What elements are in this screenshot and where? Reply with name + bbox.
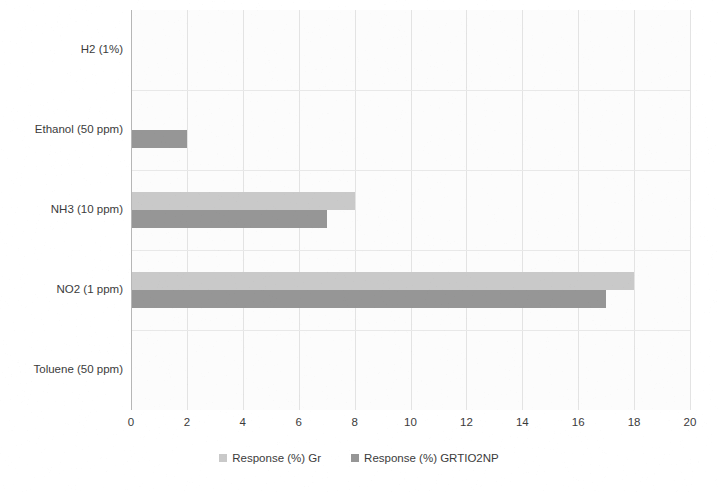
x-axis-tick-labels: 02468101214161820 bbox=[131, 416, 690, 436]
chart-legend: Response (%) GrResponse (%) GRTIO2NP bbox=[0, 452, 718, 464]
category-axis-label: NH3 (10 ppm) bbox=[0, 203, 123, 216]
bar-chart-figure: H2 (1%)Ethanol (50 ppm)NH3 (10 ppm)NO2 (… bbox=[0, 0, 718, 492]
x-axis-tick-label: 18 bbox=[628, 416, 641, 428]
y-axis-line bbox=[131, 10, 132, 410]
x-axis-tick-label: 16 bbox=[572, 416, 585, 428]
bar-group bbox=[131, 90, 690, 170]
x-axis-tick-label: 20 bbox=[684, 416, 697, 428]
category-axis-label: H2 (1%) bbox=[0, 43, 123, 56]
x-axis-tick-label: 8 bbox=[351, 416, 357, 428]
bar bbox=[131, 192, 355, 210]
category-axis-label: NO2 (1 ppm) bbox=[0, 283, 123, 296]
category-axis-label: Ethanol (50 ppm) bbox=[0, 123, 123, 136]
legend-swatch bbox=[219, 454, 227, 462]
bar bbox=[131, 210, 327, 228]
bar bbox=[131, 290, 606, 308]
legend-swatch bbox=[351, 454, 359, 462]
x-axis-tick-label: 12 bbox=[460, 416, 473, 428]
x-axis-tick-label: 10 bbox=[404, 416, 417, 428]
x-axis-tick-label: 6 bbox=[295, 416, 301, 428]
x-axis-tick-label: 0 bbox=[128, 416, 134, 428]
x-axis-tick-label: 14 bbox=[516, 416, 529, 428]
gridline-vertical bbox=[690, 10, 691, 410]
category-axis-labels: H2 (1%)Ethanol (50 ppm)NH3 (10 ppm)NO2 (… bbox=[0, 10, 125, 410]
plot-area bbox=[131, 10, 690, 410]
legend-label: Response (%) Gr bbox=[232, 452, 321, 464]
bar bbox=[131, 272, 634, 290]
legend-label: Response (%) GRTIO2NP bbox=[364, 452, 499, 464]
legend-item: Response (%) GRTIO2NP bbox=[351, 452, 499, 464]
bar-group bbox=[131, 250, 690, 330]
bar-group bbox=[131, 170, 690, 250]
x-axis-tick-label: 4 bbox=[240, 416, 246, 428]
legend-item: Response (%) Gr bbox=[219, 452, 321, 464]
x-axis-tick-label: 2 bbox=[184, 416, 190, 428]
bar-group bbox=[131, 10, 690, 90]
bar-group bbox=[131, 330, 690, 410]
bar bbox=[131, 130, 187, 148]
category-axis-label: Toluene (50 ppm) bbox=[0, 363, 123, 376]
